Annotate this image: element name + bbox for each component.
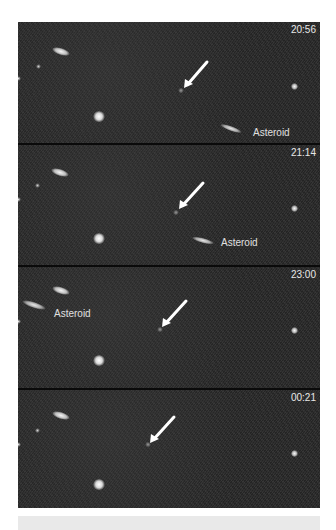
pointer-arrow [166,301,186,323]
frame-panel-2: 21:14 Asteroid [18,145,320,265]
asteroid-label: Asteroid [253,127,290,138]
caption-fragment [18,0,318,8]
frame-panel-4: 00:21 [18,390,320,508]
pointer-arrow [154,417,174,439]
caption-bar [18,516,320,530]
asteroid-label: Asteroid [221,237,258,248]
timestamp-label: 20:56 [291,24,316,35]
arrow-overlay [18,267,320,388]
arrow-overlay [18,145,320,265]
pointer-arrow [188,62,207,84]
timestamp-label: 21:14 [291,147,316,158]
asteroid-time-lapse-figure: 20:56 Asteroid 21:14 Asteroid 23:00 Aste… [18,22,320,508]
pointer-arrow [183,183,203,205]
arrow-overlay [18,22,320,143]
timestamp-label: 00:21 [291,392,316,403]
asteroid-label: Asteroid [54,308,91,319]
frame-panel-1: 20:56 Asteroid [18,22,320,143]
frame-panel-3: 23:00 Asteroid [18,267,320,388]
timestamp-label: 23:00 [291,269,316,280]
arrow-overlay [18,390,320,508]
